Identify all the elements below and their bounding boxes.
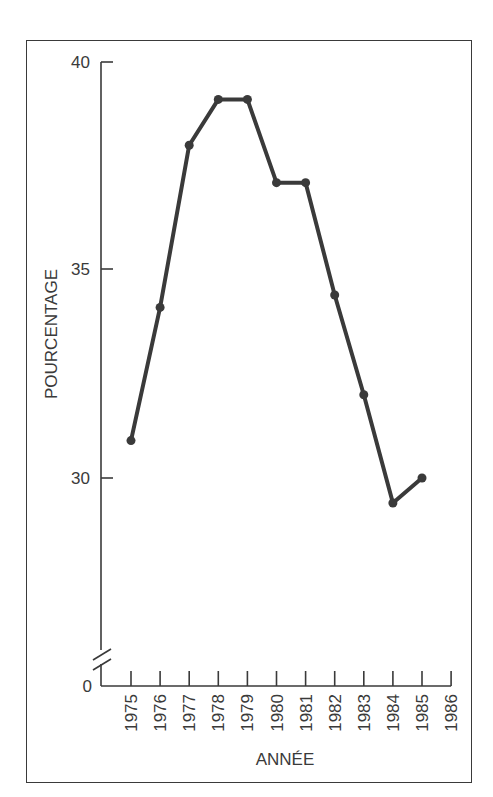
- data-point: [185, 141, 194, 150]
- series-line: [131, 99, 422, 503]
- data-series: [127, 95, 427, 508]
- y-axis-title: POURCENTAGE: [42, 269, 61, 399]
- data-point: [243, 95, 252, 104]
- x-tick-label: 1983: [355, 694, 374, 732]
- x-tick-label: 1978: [209, 694, 228, 732]
- y-axis-ticks: 0303540: [71, 53, 113, 696]
- y-tick-label: 0: [83, 677, 92, 696]
- data-point: [418, 474, 427, 483]
- y-tick-label: 35: [71, 260, 90, 279]
- data-point: [301, 178, 310, 187]
- x-tick-label: 1982: [326, 694, 345, 732]
- x-tick-label: 1980: [268, 694, 287, 732]
- axis-break-mark: [93, 659, 111, 670]
- y-tick-label: 40: [71, 53, 90, 72]
- data-point: [214, 95, 223, 104]
- x-tick-label: 1979: [238, 694, 257, 732]
- data-point: [388, 498, 397, 507]
- x-tick-label: 1975: [122, 694, 141, 732]
- x-axis-title: ANNÉE: [256, 750, 315, 769]
- data-point: [272, 178, 281, 187]
- x-axis-ticks: 1975197619771978197919801981198219831984…: [122, 671, 461, 732]
- x-tick-label: 1984: [384, 694, 403, 732]
- x-tick-label: 1976: [151, 694, 170, 732]
- x-tick-label: 1985: [413, 694, 432, 732]
- x-tick-label: 1986: [442, 694, 461, 732]
- x-tick-label: 1977: [180, 694, 199, 732]
- axis-break-mark: [93, 649, 111, 660]
- x-tick-label: 1981: [297, 694, 316, 732]
- data-point: [359, 390, 368, 399]
- data-point: [156, 303, 165, 312]
- line-chart: 0303540 19751976197719781979198019811982…: [0, 0, 493, 797]
- data-point: [330, 290, 339, 299]
- data-point: [127, 436, 136, 445]
- y-tick-label: 30: [71, 469, 90, 488]
